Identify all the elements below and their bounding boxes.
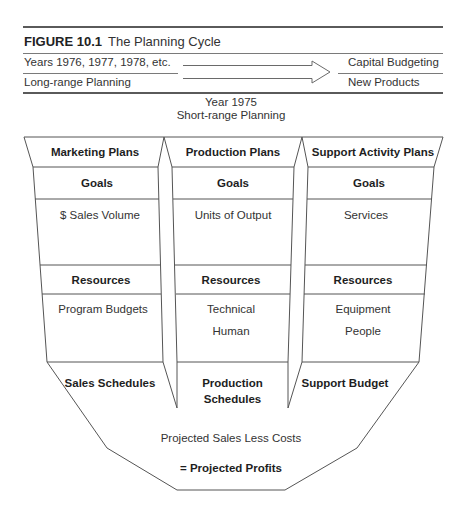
marketing-goals-label: Goals bbox=[34, 176, 160, 190]
production-goals-label: Goals bbox=[172, 176, 294, 190]
production-goal-item: Units of Output bbox=[172, 208, 294, 222]
support-goals-label: Goals bbox=[306, 176, 432, 190]
production-resource-item: Human bbox=[172, 324, 290, 338]
production-resources-label: Resources bbox=[172, 273, 290, 287]
right-arrow-icon bbox=[183, 61, 330, 83]
marketing-plans-header: Marketing Plans bbox=[30, 145, 160, 159]
support-budget-output: Support Budget bbox=[300, 376, 390, 390]
support-goal-item: Services bbox=[304, 208, 428, 222]
sales-schedules-output: Sales Schedules bbox=[60, 376, 160, 390]
year-1975-label: Year 1975 bbox=[181, 96, 281, 108]
production-schedules-line-2: Schedules bbox=[180, 392, 285, 406]
marketing-resource-item: Program Budgets bbox=[42, 302, 164, 316]
production-schedules-line-1: Production bbox=[180, 376, 285, 390]
production-schedules-output: Production Schedules bbox=[180, 376, 285, 406]
support-resources-label: Resources bbox=[302, 273, 424, 287]
short-range-planning-label: Short-range Planning bbox=[161, 109, 301, 121]
production-resource-item: Technical bbox=[172, 302, 290, 316]
projected-sales-less-costs: Projected Sales Less Costs bbox=[131, 431, 331, 445]
support-activity-plans-header: Support Activity Plans bbox=[305, 145, 441, 159]
marketing-resources-label: Resources bbox=[40, 273, 162, 287]
support-resource-item: People bbox=[302, 324, 424, 338]
projected-profits: = Projected Profits bbox=[131, 461, 331, 475]
production-plans-header: Production Plans bbox=[170, 145, 296, 159]
marketing-goal-item: $ Sales Volume bbox=[38, 208, 162, 222]
support-resource-item: Equipment bbox=[302, 302, 424, 316]
